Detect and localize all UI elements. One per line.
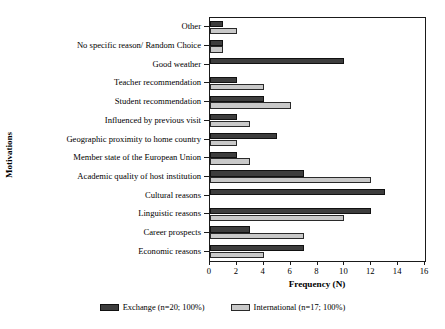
bar-international [210, 215, 344, 221]
bar-international [210, 177, 371, 183]
bar-international [210, 46, 223, 52]
y-axis-tick-label: Career prospects [0, 227, 201, 237]
bar-exchange [210, 58, 344, 64]
y-axis-tick-label: No specific reason/ Random Choice [0, 40, 201, 50]
bar-exchange [210, 21, 223, 27]
x-axis-tick-label: 8 [305, 266, 329, 277]
x-axis-tick [236, 261, 237, 265]
x-axis-tick [263, 261, 264, 265]
legend-label-exchange: Exchange (n=20; 100%) [123, 303, 205, 312]
bar-exchange [210, 152, 237, 158]
y-axis-tick [204, 45, 209, 46]
x-axis-tick [370, 261, 371, 265]
x-axis-tick [209, 261, 210, 265]
bar-exchange [210, 96, 264, 102]
bar-international [210, 233, 304, 239]
y-axis-tick [204, 213, 209, 214]
bar-international [210, 84, 264, 90]
y-axis-tick [204, 64, 209, 65]
bars-container [210, 18, 425, 261]
bar-exchange [210, 245, 304, 251]
plot-area [209, 17, 426, 262]
bar-international [210, 102, 291, 108]
bar-chart-figure: Motivations OtherNo specific reason/ Ran… [0, 0, 445, 329]
y-axis-tick [204, 120, 209, 121]
bar-international [210, 28, 237, 34]
y-axis-tick [204, 26, 209, 27]
y-axis-tick-label: Geographic proximity to home country [0, 134, 201, 144]
y-axis-tick [204, 232, 209, 233]
bar-exchange [210, 189, 385, 195]
y-axis-tick-label: Teacher recommendation [0, 77, 201, 87]
legend-label-international: International (n=17; 100%) [254, 303, 346, 312]
legend-item-international: International (n=17; 100%) [231, 303, 346, 312]
y-axis-tick-label: Other [0, 21, 201, 31]
chart-legend: Exchange (n=20; 100%) International (n=1… [0, 303, 445, 312]
y-axis-tick-label: Influenced by previous visit [0, 115, 201, 125]
y-axis-tick [204, 251, 209, 252]
y-axis-tick [204, 176, 209, 177]
x-axis-tick-label: 14 [385, 266, 409, 277]
x-axis-tick [317, 261, 318, 265]
x-axis-title: Frequency (N) [209, 279, 425, 289]
y-axis-tick [204, 101, 209, 102]
y-axis-tick-label: Member state of the European Union [0, 152, 201, 162]
legend-swatch-international [231, 304, 250, 311]
y-axis-tick [204, 157, 209, 158]
x-axis-tick-label: 6 [278, 266, 302, 277]
bar-international [210, 252, 264, 258]
bar-international [210, 158, 250, 164]
bar-exchange [210, 208, 371, 214]
bar-exchange [210, 40, 223, 46]
y-axis-tick [204, 139, 209, 140]
x-axis-tick-label: 4 [251, 266, 275, 277]
x-axis-tick-label: 16 [412, 266, 436, 277]
bar-exchange [210, 77, 237, 83]
x-axis-tick-label: 10 [331, 266, 355, 277]
x-axis-tick [343, 261, 344, 265]
y-axis-category-labels: OtherNo specific reason/ Random ChoiceGo… [0, 17, 203, 260]
bar-exchange [210, 170, 304, 176]
y-axis-tick-label: Linguistic reasons [0, 208, 201, 218]
x-axis-tick [290, 261, 291, 265]
bar-international [210, 121, 250, 127]
x-axis-tick-label: 12 [358, 266, 382, 277]
x-axis-tick-label: 2 [224, 266, 248, 277]
y-axis-tick [204, 82, 209, 83]
y-axis-tick-label: Student recommendation [0, 96, 201, 106]
bar-exchange [210, 114, 237, 120]
legend-swatch-exchange [100, 304, 119, 311]
y-axis-tick-label: Cultural reasons [0, 190, 201, 200]
y-axis-tick-label: Academic quality of host institution [0, 171, 201, 181]
bar-international [210, 140, 237, 146]
y-axis-tick-label: Good weather [0, 59, 201, 69]
x-axis-tick [424, 261, 425, 265]
legend-item-exchange: Exchange (n=20; 100%) [100, 303, 205, 312]
bar-exchange [210, 133, 277, 139]
x-axis-tick [397, 261, 398, 265]
bar-exchange [210, 226, 250, 232]
y-axis-tick-label: Economic reasons [0, 246, 201, 256]
y-axis-tick [204, 195, 209, 196]
x-axis-tick-label: 0 [197, 266, 221, 277]
